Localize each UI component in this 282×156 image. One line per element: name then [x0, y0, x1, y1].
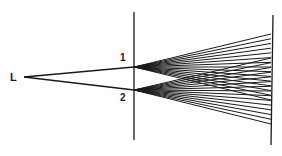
slit-1-label: 1: [120, 52, 126, 63]
incident-rays: [24, 67, 134, 90]
source-label: L: [10, 71, 17, 83]
incident-ray-2: [24, 77, 134, 90]
double-slit-diagram: L 1 2: [0, 0, 282, 156]
detection-screen: [271, 15, 273, 145]
diffraction-fans: [134, 34, 271, 124]
slit-2-label: 2: [120, 92, 126, 103]
incident-ray-1: [24, 67, 134, 77]
